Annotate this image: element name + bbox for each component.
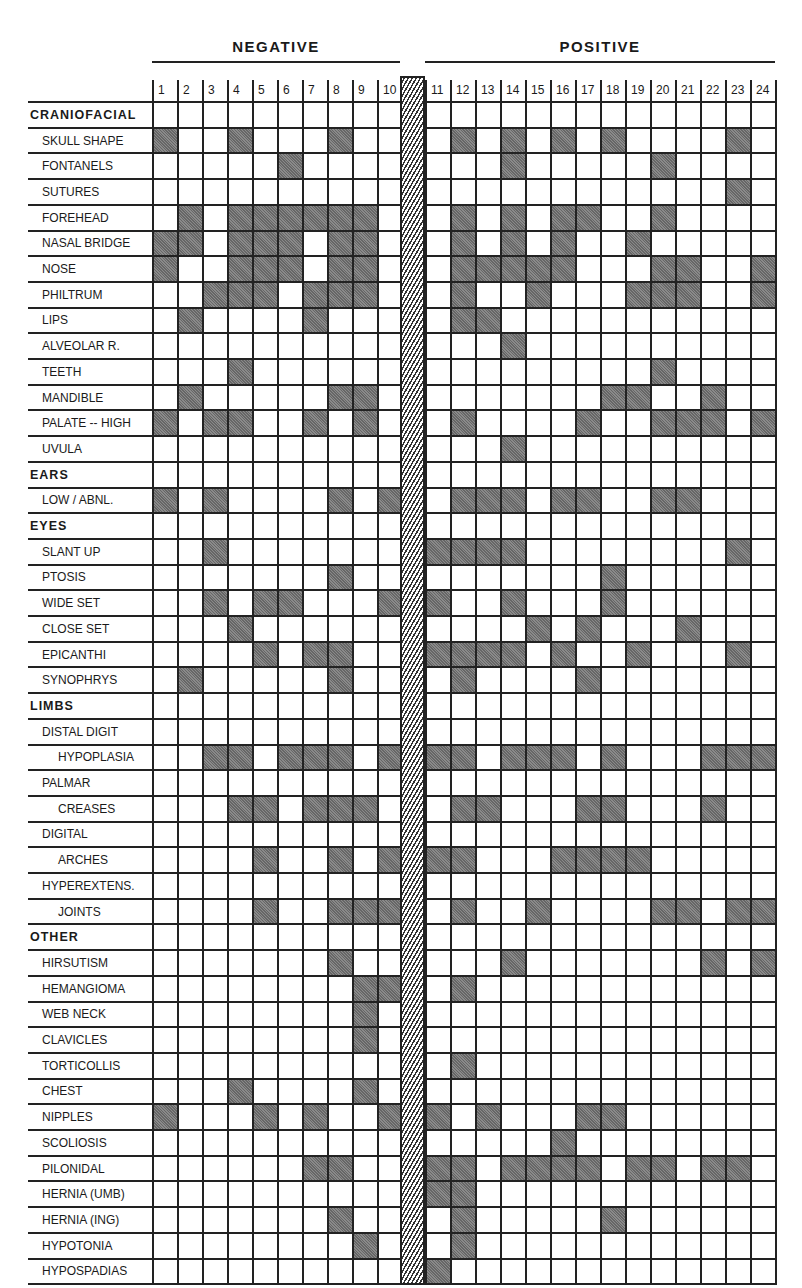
shaded-cell — [600, 564, 625, 590]
empty-cell — [750, 152, 775, 178]
empty-cell — [202, 1180, 227, 1206]
empty-cell — [725, 923, 750, 949]
empty-cell — [352, 769, 377, 795]
empty-cell — [550, 512, 575, 538]
empty-cell — [500, 101, 525, 127]
shaded-cell — [700, 744, 725, 770]
empty-cell — [152, 589, 177, 615]
empty-cell — [377, 127, 401, 153]
empty-cell — [425, 821, 450, 847]
empty-cell — [700, 1180, 725, 1206]
empty-cell — [475, 975, 500, 1001]
empty-cell — [500, 1026, 525, 1052]
empty-cell — [750, 718, 775, 744]
empty-cell — [750, 795, 775, 821]
empty-cell — [625, 564, 650, 590]
empty-cell — [302, 1180, 327, 1206]
empty-cell — [202, 101, 227, 127]
empty-cell — [725, 307, 750, 333]
empty-cell — [277, 101, 302, 127]
shaded-cell — [450, 1052, 475, 1078]
shaded-cell — [177, 230, 202, 256]
empty-cell — [302, 538, 327, 564]
empty-cell — [177, 1078, 202, 1104]
empty-cell — [700, 307, 725, 333]
empty-cell — [202, 461, 227, 487]
empty-cell — [725, 1180, 750, 1206]
empty-cell — [227, 101, 252, 127]
empty-cell — [675, 821, 700, 847]
empty-cell — [227, 1232, 252, 1258]
empty-cell — [352, 1258, 377, 1284]
empty-cell — [675, 641, 700, 667]
empty-cell — [475, 666, 500, 692]
empty-cell — [650, 1078, 675, 1104]
empty-cell — [600, 307, 625, 333]
section-label: CRANIOFACIAL — [28, 101, 152, 127]
shaded-cell — [575, 795, 600, 821]
empty-cell — [327, 1052, 352, 1078]
empty-cell — [252, 435, 277, 461]
row-label: TEETH — [28, 358, 152, 384]
shaded-cell — [450, 255, 475, 281]
empty-cell — [227, 461, 252, 487]
shaded-cell — [750, 255, 775, 281]
empty-cell — [650, 872, 675, 898]
empty-cell — [177, 564, 202, 590]
empty-cell — [475, 744, 500, 770]
empty-cell — [475, 230, 500, 256]
empty-cell — [500, 384, 525, 410]
empty-cell — [425, 230, 450, 256]
empty-cell — [302, 127, 327, 153]
shaded-cell — [302, 281, 327, 307]
empty-cell — [700, 435, 725, 461]
shaded-cell — [327, 641, 352, 667]
empty-cell — [227, 718, 252, 744]
empty-cell — [152, 512, 177, 538]
empty-cell — [600, 615, 625, 641]
row-label: NOSE — [28, 255, 152, 281]
empty-cell — [450, 178, 475, 204]
empty-cell — [600, 666, 625, 692]
empty-cell — [550, 332, 575, 358]
empty-cell — [700, 718, 725, 744]
empty-cell — [700, 769, 725, 795]
empty-cell — [177, 1103, 202, 1129]
column-number: 1 — [152, 80, 177, 101]
empty-cell — [252, 1026, 277, 1052]
empty-cell — [525, 1206, 550, 1232]
empty-cell — [675, 795, 700, 821]
empty-cell — [750, 332, 775, 358]
empty-cell — [277, 512, 302, 538]
empty-cell — [700, 152, 725, 178]
empty-cell — [600, 281, 625, 307]
empty-cell — [227, 589, 252, 615]
empty-cell — [352, 564, 377, 590]
empty-cell — [525, 872, 550, 898]
empty-cell — [450, 589, 475, 615]
empty-cell — [227, 1026, 252, 1052]
empty-cell — [750, 101, 775, 127]
empty-cell — [425, 281, 450, 307]
empty-cell — [600, 1258, 625, 1284]
empty-cell — [202, 718, 227, 744]
empty-cell — [725, 846, 750, 872]
shaded-cell — [600, 1103, 625, 1129]
empty-cell — [152, 1258, 177, 1284]
empty-cell — [525, 1258, 550, 1284]
empty-cell — [575, 872, 600, 898]
empty-cell — [575, 949, 600, 975]
empty-cell — [700, 230, 725, 256]
empty-cell — [425, 152, 450, 178]
empty-cell — [377, 718, 401, 744]
shaded-cell — [252, 898, 277, 924]
empty-cell — [152, 1078, 177, 1104]
empty-cell — [475, 898, 500, 924]
empty-cell — [202, 564, 227, 590]
empty-cell — [650, 178, 675, 204]
empty-cell — [227, 821, 252, 847]
empty-cell — [227, 538, 252, 564]
shaded-cell — [327, 1206, 352, 1232]
empty-cell — [202, 307, 227, 333]
empty-cell — [675, 152, 700, 178]
